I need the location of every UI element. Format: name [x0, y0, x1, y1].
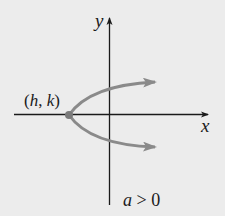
vertex-label: (h, k)	[24, 92, 60, 109]
parabola-diagram: y x (h, k) a > 0	[0, 0, 225, 216]
vertex-separator: ,	[38, 91, 47, 110]
vertex-h: h	[30, 91, 39, 110]
vertex-close-paren: )	[54, 91, 60, 110]
vertex-point	[65, 111, 73, 119]
y-axis-label: y	[95, 11, 103, 30]
parabola-lower-branch	[69, 115, 155, 147]
condition-op: >	[132, 190, 151, 210]
x-axis-label: x	[201, 116, 209, 135]
condition-var: a	[123, 190, 132, 210]
condition-label: a > 0	[123, 191, 160, 209]
parabola-upper-branch	[69, 82, 155, 115]
condition-value: 0	[151, 190, 160, 210]
